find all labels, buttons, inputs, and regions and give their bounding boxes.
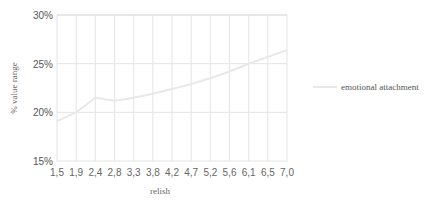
y-tick-label: 30% [33,10,53,21]
y-tick-label: 15% [33,156,53,167]
x-tick-label: 2,4 [88,167,102,178]
x-tick-label: 5,6 [223,167,237,178]
x-tick-label: 7,0 [280,167,294,178]
x-tick-label: 5,2 [203,167,217,178]
y-axis-ticks: 15%20%25%30% [33,10,53,167]
x-axis-title: relish [150,186,170,196]
y-axis-title: % value range [9,62,19,113]
x-tick-label: 1,9 [69,167,83,178]
y-tick-label: 20% [33,107,53,118]
legend: emotional attachment [313,82,419,92]
x-tick-label: 2,8 [108,167,122,178]
x-tick-label: 1,5 [50,167,64,178]
x-tick-label: 4,2 [165,167,179,178]
x-tick-label: 3,8 [146,167,160,178]
legend-label: emotional attachment [341,82,419,92]
x-tick-label: 3,3 [127,167,141,178]
x-tick-label: 4,7 [184,167,198,178]
x-tick-label: 6,5 [261,167,275,178]
x-axis-ticks: 1,51,92,42,83,33,84,24,75,25,66,16,57,0 [50,167,294,178]
x-tick-label: 6,1 [242,167,256,178]
line-chart: 15%20%25%30% 1,51,92,42,83,33,84,24,75,2… [0,0,431,205]
y-tick-label: 25% [33,59,53,70]
